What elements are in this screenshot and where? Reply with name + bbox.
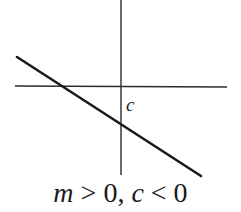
caption-m: m [53,177,73,208]
caption: m > 0, c < 0 [0,176,241,210]
caption-c: c [131,177,143,208]
intercept-label: c [126,94,134,116]
caption-rel1: > 0, [74,177,132,208]
graph-line [17,57,201,176]
caption-rel2: < 0 [144,177,188,208]
